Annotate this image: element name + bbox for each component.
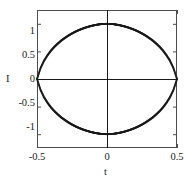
y-axis-title: I [6, 74, 10, 85]
chart-figure: 1 0.5 0 -0.5 -1 -0.5 0 0.5 t I [0, 0, 195, 183]
xtick-label-0point5: 0.5 [159, 152, 195, 163]
ytick-label-0point5: 0.5 [9, 50, 35, 61]
x-axis-title: t [104, 167, 107, 178]
ytick-label-1: 1 [9, 26, 35, 37]
xtick-label-0: 0 [89, 152, 125, 163]
xtick-label-minus0point5: -0.5 [19, 152, 55, 163]
ytick-label-minus1: -1 [9, 122, 35, 133]
ytick-label-minus0point5: -0.5 [9, 98, 35, 109]
zero-axis-lines [37, 10, 177, 148]
ytick-label-0: 0 [9, 74, 35, 85]
